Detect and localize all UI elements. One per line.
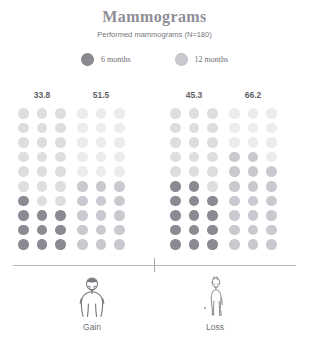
dot-empty <box>207 166 218 177</box>
dot-empty <box>170 152 181 163</box>
dot-filled <box>170 239 181 250</box>
person-slim-icon <box>155 275 275 319</box>
dot-filled <box>248 181 259 192</box>
dot-empty <box>55 181 66 192</box>
dot-empty <box>207 137 218 148</box>
dot-empty <box>114 137 125 148</box>
dot-group-1: 33.8 <box>14 88 70 252</box>
dot-filled <box>248 225 259 236</box>
dot-filled <box>77 225 88 236</box>
figure-label-gain: Gain <box>32 322 152 332</box>
chart-title: Mammograms <box>0 8 309 26</box>
dot-filled <box>248 239 259 250</box>
dot-empty <box>55 196 66 207</box>
dot-filled <box>77 196 88 207</box>
dot-filled <box>229 225 240 236</box>
dot-empty <box>18 166 29 177</box>
dot-empty <box>18 108 29 119</box>
dot-filled <box>229 239 240 250</box>
dot-empty <box>37 123 48 134</box>
dot-filled <box>229 196 240 207</box>
dot-filled <box>18 196 29 207</box>
person-heavy-icon <box>32 275 152 319</box>
dot-filled <box>189 210 200 221</box>
legend-label-12-months: 12 months <box>195 55 229 64</box>
dot-empty <box>207 123 218 134</box>
dot-grid <box>166 106 222 252</box>
dot-empty <box>55 137 66 148</box>
dot-empty <box>248 108 259 119</box>
dot-empty <box>170 123 181 134</box>
dot-filled <box>266 181 277 192</box>
dot-empty <box>55 108 66 119</box>
legend-swatch-6-months <box>81 53 94 66</box>
dot-filled <box>37 210 48 221</box>
dot-empty <box>77 123 88 134</box>
dot-empty <box>207 108 218 119</box>
dot-empty <box>18 137 29 148</box>
dot-filled <box>55 225 66 236</box>
dot-filled <box>207 225 218 236</box>
legend-item-6-months[interactable]: 6 months <box>81 53 131 66</box>
dot-empty <box>37 137 48 148</box>
dot-empty <box>77 108 88 119</box>
dot-filled <box>96 210 107 221</box>
dot-group-value-label: 66.2 <box>225 88 281 102</box>
dot-empty <box>207 152 218 163</box>
dot-filled <box>96 225 107 236</box>
dot-filled <box>266 166 277 177</box>
category-figures: Gain Loss <box>0 275 309 344</box>
dot-filled <box>18 239 29 250</box>
dot-filled <box>114 210 125 221</box>
figure-label-loss: Loss <box>155 322 275 332</box>
decorative-speck <box>204 307 206 309</box>
dot-empty <box>189 123 200 134</box>
dot-empty <box>170 137 181 148</box>
dot-filled <box>170 181 181 192</box>
dot-empty <box>189 152 200 163</box>
dot-empty <box>55 123 66 134</box>
dot-filled <box>189 239 200 250</box>
dot-filled <box>18 210 29 221</box>
dot-empty <box>266 137 277 148</box>
dot-empty <box>37 108 48 119</box>
dot-filled <box>96 239 107 250</box>
dot-filled <box>189 181 200 192</box>
dot-group-2: 51.5 <box>73 88 129 252</box>
dot-filled <box>229 166 240 177</box>
dot-empty <box>170 108 181 119</box>
dot-filled <box>207 210 218 221</box>
mammograms-chart: Mammograms Performed mammograms (N=180) … <box>0 0 309 344</box>
dot-filled <box>170 210 181 221</box>
dot-empty <box>114 108 125 119</box>
dot-group-value-label: 33.8 <box>14 88 70 102</box>
dot-empty <box>229 123 240 134</box>
dot-filled <box>229 152 240 163</box>
chart-legend: 6 months 12 months <box>0 53 309 66</box>
dot-filled <box>96 181 107 192</box>
dot-empty <box>77 166 88 177</box>
dot-filled <box>229 210 240 221</box>
dot-empty <box>37 166 48 177</box>
dot-filled <box>114 196 125 207</box>
dot-filled <box>114 225 125 236</box>
dot-filled <box>18 225 29 236</box>
dot-empty <box>96 108 107 119</box>
dot-group-4: 66.2 <box>225 88 281 252</box>
dot-empty <box>18 123 29 134</box>
dot-filled <box>77 181 88 192</box>
dot-filled <box>248 210 259 221</box>
dot-empty <box>96 152 107 163</box>
dot-empty <box>266 108 277 119</box>
chart-subtitle: Performed mammograms (N=180) <box>0 30 309 39</box>
dot-group-value-label: 51.5 <box>73 88 129 102</box>
dot-empty <box>96 123 107 134</box>
dot-filled <box>266 225 277 236</box>
dot-filled <box>37 239 48 250</box>
dot-empty <box>55 166 66 177</box>
legend-item-12-months[interactable]: 12 months <box>175 53 229 66</box>
dot-filled <box>189 196 200 207</box>
dot-grid <box>14 106 70 252</box>
dot-empty <box>248 123 259 134</box>
dot-matrix-groups: 33.851.545.366.2 <box>0 88 309 258</box>
